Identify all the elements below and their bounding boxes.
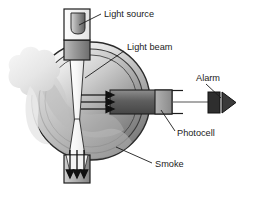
label-light-source: Light source [104, 9, 154, 19]
label-light-beam: Light beam [127, 42, 173, 52]
collimator-body [64, 40, 90, 60]
smoke-detector-diagram: Light source Light beam Alarm Photocell … [0, 0, 254, 199]
label-photocell: Photocell [177, 128, 215, 138]
alarm-horn-icon [222, 92, 236, 113]
label-smoke: Smoke [155, 159, 184, 169]
alarm-unit [208, 92, 236, 113]
leader-smoke [116, 147, 152, 163]
light-source-housing [64, 9, 90, 40]
photocell-tube [110, 90, 208, 114]
diagram-canvas: Light source Light beam Alarm Photocell … [0, 0, 254, 199]
collimator-tube [64, 40, 90, 60]
beam-exit-arrows [66, 150, 87, 178]
label-alarm: Alarm [196, 73, 220, 83]
photocell-element [155, 90, 172, 114]
scattered-light-arrows [81, 91, 114, 112]
